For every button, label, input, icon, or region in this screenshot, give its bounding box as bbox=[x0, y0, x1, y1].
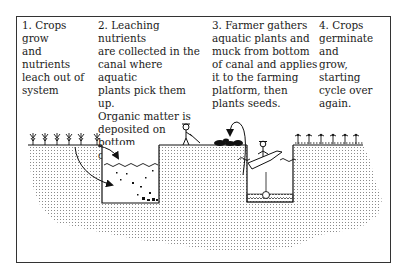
dredge-bucket bbox=[263, 192, 270, 199]
farmer-on-platform bbox=[182, 124, 200, 145]
muck-pile bbox=[214, 139, 243, 147]
crops-row-left bbox=[30, 133, 100, 145]
soil-mass bbox=[28, 145, 382, 252]
canal-bottom-muck bbox=[247, 194, 293, 202]
canal-1 bbox=[102, 145, 159, 203]
crops-row-right bbox=[295, 134, 363, 144]
chinampa-cycle-illustration bbox=[0, 0, 405, 277]
